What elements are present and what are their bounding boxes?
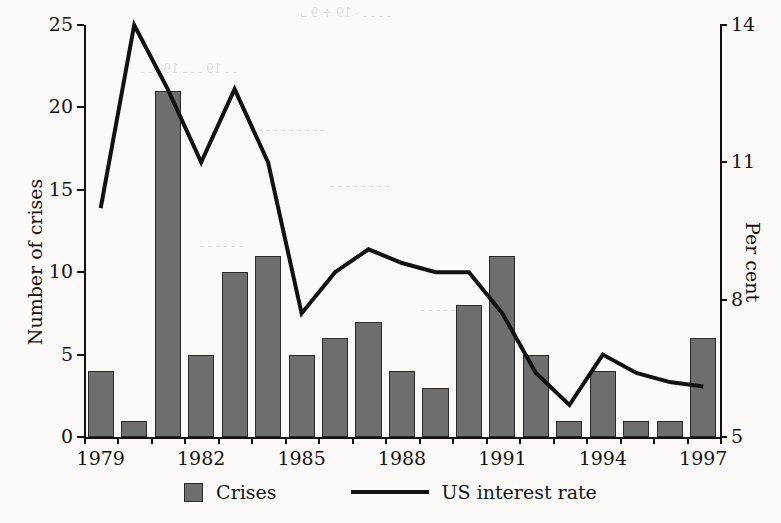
x-axis-tick [620, 437, 622, 444]
legend-label-us-interest-rate: US interest rate [442, 481, 597, 503]
chart-legend: Crises US interest rate [0, 481, 781, 503]
y-axis-left-tick [77, 354, 84, 356]
y-axis-left-title: Number of crises [24, 178, 46, 344]
legend-line-swatch-icon [351, 490, 429, 494]
x-axis-tick [184, 437, 186, 444]
x-axis-tick [519, 437, 521, 444]
y-axis-right-tick-label: 5 [731, 427, 743, 446]
x-axis-tick [419, 437, 421, 444]
x-axis-tick-label: 1985 [277, 449, 325, 468]
legend-square-swatch-icon [184, 483, 203, 502]
x-axis-tick [687, 437, 689, 444]
x-axis-tick-label: 1982 [177, 449, 225, 468]
y-axis-left-tick-label: 25 [49, 15, 73, 34]
x-axis-tick [218, 437, 220, 444]
x-axis-tick [553, 437, 555, 444]
x-axis-tick [117, 437, 119, 444]
x-axis-tick [84, 437, 86, 444]
y-axis-left-tick [77, 189, 84, 191]
y-axis-right-tick-label: 8 [731, 290, 743, 309]
y-axis-right-tick [720, 299, 727, 301]
y-axis-right-title: Per cent [742, 221, 764, 301]
y-axis-right-tick [720, 161, 727, 163]
x-axis-tick [318, 437, 320, 444]
x-axis-line [84, 437, 720, 439]
y-axis-left-tick [77, 106, 84, 108]
legend-item-us-interest-rate: US interest rate [351, 481, 597, 503]
x-axis-tick [251, 437, 253, 444]
x-axis-tick [486, 437, 488, 444]
x-axis-tick [653, 437, 655, 444]
y-axis-left-tick-label: 10 [49, 262, 73, 281]
x-axis-tick-label: 1997 [679, 449, 727, 468]
x-axis-tick [586, 437, 588, 444]
x-axis-tick [285, 437, 287, 444]
y-axis-right-line [720, 25, 722, 437]
y-axis-left-tick [77, 24, 84, 26]
legend-item-crises: Crises [184, 481, 276, 503]
x-axis-tick [352, 437, 354, 444]
crises-interest-rate-chart: بـ 9 + 19 - ـ ـ ـ ـ ـ ـ ـ 19 ـ ـ ـ 19 ـ … [0, 0, 781, 523]
page-showthrough-text: بـ 9 + 19 - ـ ـ ـ ـ [300, 6, 391, 20]
x-axis-tick-label: 1979 [77, 449, 125, 468]
x-axis-tick [720, 437, 722, 444]
x-axis-tick-label: 1991 [478, 449, 526, 468]
y-axis-left-tick [77, 436, 84, 438]
plot-area: 0510152025 581114 1979198219851988199119… [84, 25, 720, 437]
y-axis-right-tick-label: 11 [731, 152, 755, 171]
x-axis-tick-label: 1994 [579, 449, 627, 468]
x-axis-tick-label: 1988 [378, 449, 426, 468]
line-series-us-interest-rate [84, 25, 720, 437]
legend-label-crises: Crises [216, 481, 276, 503]
y-axis-left-tick-label: 15 [49, 180, 73, 199]
y-axis-left-tick-label: 20 [49, 97, 73, 116]
y-axis-right-tick-label: 14 [731, 15, 755, 34]
y-axis-left-tick-label: 0 [61, 427, 73, 446]
y-axis-left-tick [77, 271, 84, 273]
x-axis-tick [385, 437, 387, 444]
y-axis-right-tick [720, 24, 727, 26]
x-axis-tick [452, 437, 454, 444]
y-axis-left-tick-label: 5 [61, 345, 73, 364]
x-axis-tick [151, 437, 153, 444]
